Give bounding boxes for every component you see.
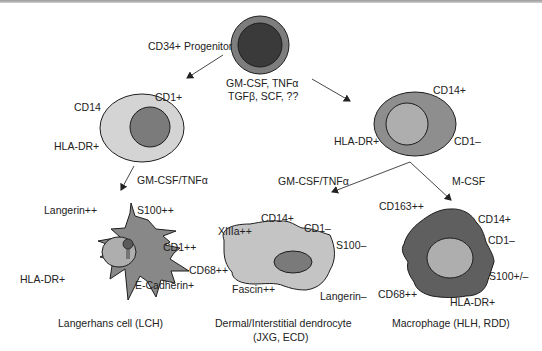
dendrocyte-caption-line2: (JXG, ECD) xyxy=(253,331,308,344)
marker-cd14: CD14+ xyxy=(433,84,466,96)
cell-lineage-diagram: CD34+ Progenitor GM-CSF, TNFα TGFβ, SCF,… xyxy=(0,0,542,351)
marker-s100: S100+/– xyxy=(489,270,528,282)
arrow-to-langerhans xyxy=(121,166,134,190)
marker-cd1: CD1++ xyxy=(163,241,196,253)
left-precursor-cell xyxy=(100,94,184,162)
progenitor-cell xyxy=(231,16,289,74)
pathway-factor-dendrocyte: GM-CSF/TNFα xyxy=(278,175,349,187)
pathway-factor-langerhans: GM-CSF/TNFα xyxy=(137,174,208,186)
marker-xiiia: XIIIa++ xyxy=(218,225,252,237)
marker-langerin: Langerin– xyxy=(320,290,367,302)
progenitor-label: CD34+ Progenitor xyxy=(148,40,232,52)
marker-cd14: CD14 xyxy=(74,101,101,113)
langerhans-caption: Langerhans cell (LCH) xyxy=(58,317,163,330)
marker-s100: S100– xyxy=(336,239,366,251)
arrow-to-right-precursor xyxy=(312,79,350,101)
marker-s100: S100++ xyxy=(137,204,174,216)
marker-cd1: CD1– xyxy=(454,135,481,147)
marker-langerin: Langerin++ xyxy=(44,204,97,216)
marker-fascin: Fascin++ xyxy=(232,283,275,295)
pathway-factor-macrophage: M-CSF xyxy=(452,175,485,187)
right-precursor-cell xyxy=(374,92,456,156)
marker-cd14: CD14+ xyxy=(261,212,294,224)
macrophage-caption: Macrophage (HLH, RDD) xyxy=(392,317,510,330)
marker-cd1: CD1– xyxy=(304,222,331,234)
marker-cd1: CD1+ xyxy=(155,91,182,103)
marker-hla-dr: HLA-DR+ xyxy=(450,296,495,308)
marker-cd14: CD14+ xyxy=(478,213,511,225)
marker-cd68: CD68++ xyxy=(189,264,228,276)
progenitor-factors-line2: TGFβ, SCF, ?? xyxy=(228,90,298,102)
marker-cd163: CD163++ xyxy=(379,200,424,212)
marker-e-cadherin: E-Cadherin+ xyxy=(135,279,194,291)
marker-hla-dr: HLA-DR+ xyxy=(20,273,65,285)
marker-hla-dr: HLA-DR+ xyxy=(334,135,379,147)
dendrocyte-caption-line1: Dermal/Interstitial dendrocyte xyxy=(215,317,352,330)
progenitor-factors-line1: GM-CSF, TNFα xyxy=(226,77,298,89)
arrow-to-left-precursor xyxy=(187,55,223,78)
marker-hla-dr: HLA-DR+ xyxy=(54,140,99,152)
marker-cd1: CD1– xyxy=(488,234,515,246)
marker-cd68: CD68++ xyxy=(378,288,417,300)
